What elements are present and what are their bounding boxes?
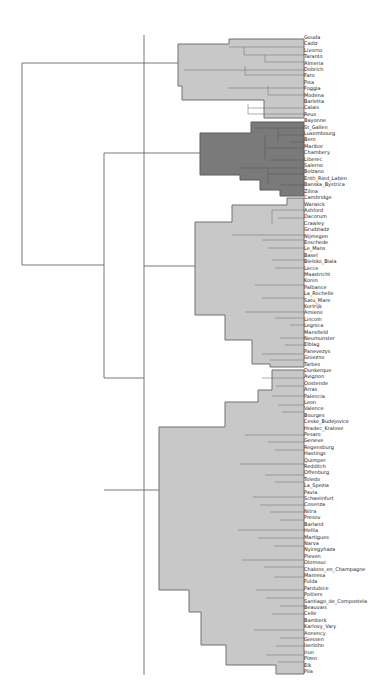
leaf-label: Schweinfurt	[304, 495, 334, 501]
leaf-label: Manresa	[304, 572, 325, 578]
leaf-label: Bern	[304, 136, 316, 142]
leaf-label: Neumunster	[304, 335, 335, 341]
leaf-label: Avignon	[304, 373, 324, 379]
leaf-label: Mansfield	[304, 329, 328, 335]
leaf-label: Giessen	[304, 636, 324, 642]
leaf-label: Chalons_en_Champagne	[304, 566, 365, 572]
leaf-label: Redditch	[304, 463, 326, 469]
leaf-label: Hradec_Kralove	[304, 425, 343, 431]
leaf-label: Ceske_Budejovice	[304, 418, 349, 424]
leaf-label: Santiago_de_Compostela	[304, 598, 367, 604]
leaf-label: Toledo	[304, 476, 320, 482]
leaf-label: Modena	[304, 92, 324, 98]
leaf-label: Hellia	[304, 527, 318, 533]
leaf-label: Pila	[304, 668, 313, 674]
leaf-label: Chambery	[304, 149, 330, 155]
leaf-label: Bayonne	[304, 117, 326, 123]
leaf-label: Barletta	[304, 98, 324, 104]
leaf-label: Amiens	[304, 309, 323, 315]
leaf-label: Livorno	[304, 47, 322, 53]
leaf-label: Le_Mans	[304, 245, 325, 251]
leaf-label: Banska_Bystrica	[304, 181, 345, 187]
leaf-label: Pesaro	[304, 431, 321, 437]
leaf-label: Celle	[304, 610, 316, 616]
leaf-label: Luxembourg	[304, 130, 335, 136]
leaf-label: Nyiregyhaza	[304, 546, 335, 552]
leaf-label: Nijmegen	[304, 233, 328, 239]
leaf-label: Cambridge	[304, 194, 331, 200]
leaf-label: Hastings	[304, 450, 326, 456]
leaf-label: La_Rochelle	[304, 290, 334, 296]
leaf-label: Irun	[304, 649, 314, 655]
leaf-label: Dunkerque	[304, 367, 331, 373]
leaf-label: Dacorum	[304, 213, 327, 219]
leaf-label: Narva	[304, 540, 319, 546]
cluster-2-block	[200, 122, 304, 196]
leaf-label: Barland	[304, 521, 323, 527]
leaf-label: Dobrich	[304, 66, 323, 72]
cluster-4-block	[159, 370, 304, 674]
leaf-label: Geneve	[304, 437, 323, 443]
leaf-label: Lincoln	[304, 316, 322, 322]
leaf-label: Quimper	[304, 457, 326, 463]
leaf-label: Gniezno	[304, 354, 324, 360]
cluster-3-block	[195, 198, 304, 367]
leaf-label: Annency	[304, 630, 326, 636]
leaf-label: Arras	[304, 386, 317, 392]
leaf-label: Enth_Ried_Laben	[304, 175, 347, 181]
leaf-label: Pavia	[304, 489, 317, 495]
leaf-label: Crawley	[304, 220, 324, 226]
leaf-label: Lecce	[304, 265, 318, 271]
leaf-label: Martigues	[304, 534, 329, 540]
leaf-label: Konin	[304, 277, 318, 283]
leaf-label: Fulda	[304, 578, 317, 584]
leaf-label: Grudziadz	[304, 226, 329, 232]
leaf-label: Leon	[304, 399, 316, 405]
leaf-label: Basel	[304, 252, 318, 258]
leaf-label: Bolzano	[304, 168, 324, 174]
leaf-label: Tarbes	[304, 361, 320, 367]
leaf-label: Maribor	[304, 143, 323, 149]
leaf-label: Satu_Mare	[304, 297, 330, 303]
leaf-label: Taranto	[304, 53, 323, 59]
leaf-label: Foggia	[304, 85, 321, 91]
leaf-label: Maastricht	[304, 271, 330, 277]
leaf-label: Panevezys	[304, 348, 330, 354]
leaf-label: Calais	[304, 104, 319, 110]
leaf-label: Oostende	[304, 380, 328, 386]
leaf-label: Palbance	[304, 284, 326, 290]
leaf-label: Enschede	[304, 239, 328, 245]
leaf-label: Warwick	[304, 201, 325, 207]
leaf-label: Gouda	[304, 34, 320, 40]
leaf-label: La_Spezia	[304, 482, 329, 488]
leaf-label: Regensburg	[304, 444, 334, 450]
leaf-label: Iserlohn	[304, 642, 324, 648]
leaf-label: Pleven	[304, 553, 321, 559]
leaf-label: Zilina	[304, 188, 318, 194]
leaf-label: Elblag	[304, 341, 319, 347]
leaf-labels: GoudaCadizLivornoTarantoAlmeriaDobrichFa…	[304, 0, 381, 698]
cluster-1-block	[178, 39, 304, 118]
leaf-label: Valence	[304, 405, 324, 411]
leaf-label: Bielsko_Biala	[304, 258, 337, 264]
leaf-label: Karlovy_Vary	[304, 623, 336, 629]
leaf-label: Plzen	[304, 655, 317, 661]
leaf-label: Almeria	[304, 60, 323, 66]
leaf-label: Bourges	[304, 412, 324, 418]
leaf-label: Beauvais	[304, 604, 327, 610]
leaf-label: Palencia	[304, 393, 325, 399]
leaf-label: Kortrijk	[304, 303, 322, 309]
leaf-label: Offenburg	[304, 469, 329, 475]
leaf-label: Nitra	[304, 508, 316, 514]
leaf-label: Olomouc	[304, 559, 326, 565]
leaf-label: Ashford	[304, 207, 323, 213]
leaf-label: Cosenza	[304, 501, 325, 507]
leaf-label: Presov	[304, 514, 321, 520]
leaf-label: Pisa	[304, 79, 314, 85]
leaf-label: St_Gallen	[304, 124, 328, 130]
leaf-label: Reus	[304, 111, 316, 117]
leaf-label: Faro	[304, 72, 315, 78]
leaf-label: Cadiz	[304, 40, 318, 46]
leaf-label: Pardubice	[304, 585, 329, 591]
leaf-label: Liberec	[304, 156, 322, 162]
